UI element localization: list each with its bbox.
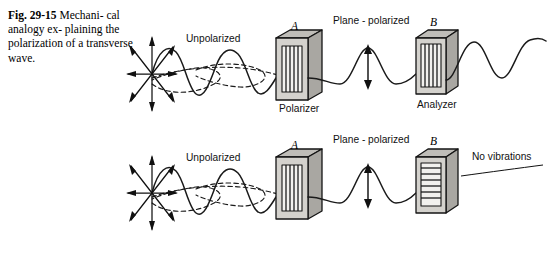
top-polarizer-letter: A bbox=[290, 20, 299, 32]
polarization-diagram: Unpolarized A Polarizer Plane - polarize… bbox=[0, 0, 551, 258]
top-transmitted-wave bbox=[446, 38, 546, 80]
bottom-vibration-burst-icon bbox=[126, 155, 178, 231]
bottom-analyzer-letter: B bbox=[430, 135, 437, 147]
top-plane-polarized-label: Plane - polarized bbox=[333, 15, 410, 26]
top-polarizer-box bbox=[276, 30, 322, 100]
bottom-analyzer-box bbox=[416, 149, 458, 213]
bottom-plane-polarized-wave bbox=[308, 167, 416, 203]
top-vertical-double-arrow-icon bbox=[364, 44, 372, 90]
bottom-unpolarized-label: Unpolarized bbox=[186, 152, 241, 163]
no-vibrations-leader-line bbox=[461, 165, 543, 176]
top-polarizer-name: Polarizer bbox=[279, 103, 320, 114]
bottom-vertical-double-arrow-icon bbox=[364, 163, 372, 209]
top-row-group: Unpolarized A Polarizer Plane - polarize… bbox=[126, 15, 546, 114]
top-analyzer-letter: B bbox=[430, 16, 437, 28]
top-analyzer-box bbox=[416, 30, 458, 94]
bottom-row-group: Unpolarized A Plane - polarized bbox=[126, 134, 543, 231]
top-analyzer-name: Analyzer bbox=[417, 99, 457, 110]
top-vibration-burst-icon bbox=[126, 36, 178, 112]
top-unpolarized-label: Unpolarized bbox=[186, 33, 241, 44]
no-vibrations-label: No vibrations bbox=[472, 151, 531, 162]
bottom-polarizer-box bbox=[276, 149, 322, 219]
top-plane-polarized-wave bbox=[308, 48, 416, 84]
bottom-plane-polarized-label: Plane - polarized bbox=[333, 134, 410, 145]
figure-29-15: Fig. 29-15 Mechani- cal analogy ex- plai… bbox=[0, 0, 551, 258]
bottom-polarizer-letter: A bbox=[290, 139, 299, 151]
